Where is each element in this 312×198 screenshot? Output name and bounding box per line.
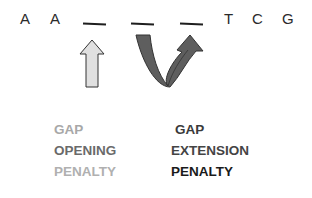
opening-label-line2: OPENING [54, 140, 116, 161]
straight-up-arrow-icon [80, 40, 104, 87]
opening-label-line3: PENALTY [54, 161, 116, 182]
extension-label-line2: EXTENSION [171, 140, 249, 161]
extension-label-line3: PENALTY [171, 161, 233, 182]
arrows-layer [0, 0, 312, 198]
opening-label-line1: GAP [54, 119, 83, 140]
extension-label-line1: GAP [175, 119, 204, 140]
u-turn-arrow-icon [136, 35, 203, 87]
